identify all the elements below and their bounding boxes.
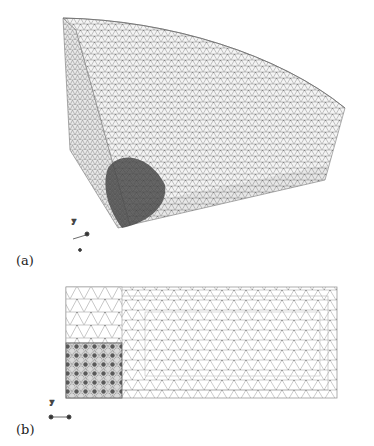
panel-label-a: (a)	[16, 253, 34, 268]
svg-text:y: y	[49, 398, 54, 406]
panel-b-mesh-2d	[66, 287, 337, 398]
axis-triad-b: y	[49, 398, 71, 419]
svg-text:y: y	[71, 217, 76, 225]
axis-triad-a: y	[71, 217, 89, 251]
panel-a-mesh-3d: y y	[0, 0, 374, 446]
panel-label-b: (b)	[16, 422, 34, 437]
refined-block	[66, 343, 122, 398]
